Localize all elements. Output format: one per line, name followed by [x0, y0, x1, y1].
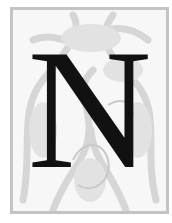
drop-cap-frame: N — [10, 7, 169, 214]
drop-cap-letter: N — [13, 8, 166, 209]
